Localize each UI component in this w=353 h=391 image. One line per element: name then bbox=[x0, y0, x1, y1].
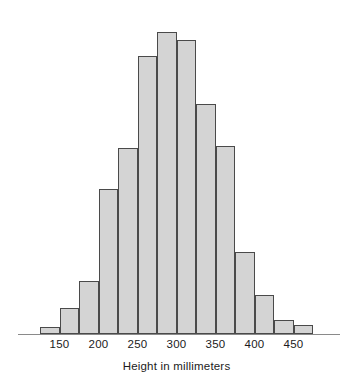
histogram-bar bbox=[235, 252, 255, 334]
x-tick-label: 200 bbox=[89, 338, 109, 350]
histogram-bar bbox=[60, 308, 80, 334]
plot-area: 150200250300350400450 bbox=[0, 0, 353, 340]
histogram-bar bbox=[138, 56, 158, 334]
x-tick-label: 350 bbox=[206, 338, 226, 350]
x-tick-label: 300 bbox=[167, 338, 187, 350]
bar-series bbox=[0, 24, 353, 334]
histogram-bar bbox=[216, 146, 236, 334]
histogram-bar bbox=[177, 40, 197, 334]
x-axis-line bbox=[18, 334, 340, 335]
histogram-bar bbox=[157, 32, 177, 334]
x-axis-title: Height in millimeters bbox=[0, 360, 353, 372]
histogram-bar bbox=[79, 281, 99, 334]
histogram-bar bbox=[99, 189, 119, 334]
x-tick-label: 450 bbox=[284, 338, 304, 350]
x-tick-label: 400 bbox=[245, 338, 265, 350]
histogram-bar bbox=[255, 295, 275, 334]
histogram-bar bbox=[40, 327, 60, 334]
histogram-figure: 150200250300350400450 Height in millimet… bbox=[0, 0, 353, 391]
histogram-bar bbox=[196, 104, 216, 334]
histogram-bar bbox=[118, 148, 138, 334]
histogram-bar bbox=[274, 320, 294, 334]
x-axis-tick-labels: 150200250300350400450 bbox=[0, 338, 353, 356]
x-tick-label: 250 bbox=[128, 338, 148, 350]
histogram-bar bbox=[294, 325, 314, 334]
x-tick-label: 150 bbox=[50, 338, 70, 350]
